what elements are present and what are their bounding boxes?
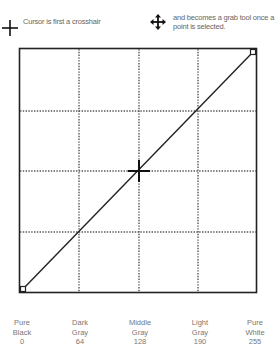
label-dark-gray: Dark Gray 64 <box>60 318 100 347</box>
move-arrows-icon <box>150 14 166 30</box>
label-pure-black: Pure Black 0 <box>2 318 42 347</box>
control-point-black[interactable] <box>21 287 26 292</box>
label-light-gray: Light Gray 190 <box>180 318 220 347</box>
control-point-white[interactable] <box>251 50 256 55</box>
grab-caption-line1: and becomes a grab tool once a <box>173 13 274 22</box>
crosshair-caption: Cursor is first a crosshair <box>23 17 101 26</box>
curves-graph[interactable] <box>18 47 260 295</box>
grab-caption: and becomes a grab tool once a point is … <box>173 13 274 31</box>
label-pure-white: Pure White 255 <box>235 318 275 347</box>
grab-caption-line2: point is selected. <box>173 22 274 31</box>
label-middle-gray: Middle Gray 128 <box>120 318 160 347</box>
crosshair-icon <box>2 20 18 36</box>
